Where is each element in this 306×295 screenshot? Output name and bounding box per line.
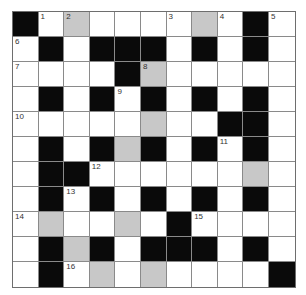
block-cell (243, 137, 269, 162)
shaded-answer-cell[interactable] (64, 237, 90, 262)
answer-cell[interactable] (167, 87, 193, 112)
answer-cell[interactable] (218, 162, 244, 187)
answer-cell[interactable] (269, 37, 295, 62)
answer-cell[interactable]: 4 (218, 12, 244, 37)
answer-cell[interactable]: 3 (167, 12, 193, 37)
answer-cell[interactable] (141, 212, 167, 237)
answer-cell[interactable] (115, 12, 141, 37)
answer-cell[interactable] (13, 262, 39, 287)
answer-cell[interactable] (39, 62, 65, 87)
block-cell (90, 237, 116, 262)
answer-cell[interactable] (90, 212, 116, 237)
answer-cell[interactable] (64, 62, 90, 87)
shaded-answer-cell[interactable] (192, 12, 218, 37)
answer-cell[interactable]: 7 (13, 62, 39, 87)
answer-cell[interactable] (115, 162, 141, 187)
answer-cell[interactable] (269, 212, 295, 237)
answer-cell[interactable] (64, 137, 90, 162)
answer-cell[interactable] (218, 187, 244, 212)
answer-cell[interactable] (218, 262, 244, 287)
answer-cell[interactable]: 16 (64, 262, 90, 287)
answer-cell[interactable] (167, 187, 193, 212)
answer-cell[interactable] (167, 137, 193, 162)
answer-cell[interactable] (269, 162, 295, 187)
answer-cell[interactable] (269, 137, 295, 162)
block-cell (192, 137, 218, 162)
shaded-answer-cell[interactable] (141, 262, 167, 287)
shaded-answer-cell[interactable] (90, 262, 116, 287)
answer-cell[interactable] (192, 262, 218, 287)
answer-cell[interactable] (218, 237, 244, 262)
shaded-answer-cell[interactable] (141, 112, 167, 137)
shaded-answer-cell[interactable] (115, 212, 141, 237)
answer-cell[interactable] (269, 112, 295, 137)
answer-cell[interactable] (13, 237, 39, 262)
answer-cell[interactable] (115, 187, 141, 212)
answer-cell[interactable] (64, 112, 90, 137)
clue-number: 10 (15, 113, 24, 121)
shaded-answer-cell[interactable] (39, 212, 65, 237)
answer-cell[interactable]: 15 (192, 212, 218, 237)
answer-cell[interactable]: 5 (269, 12, 295, 37)
answer-cell[interactable] (192, 62, 218, 87)
answer-cell[interactable]: 6 (13, 37, 39, 62)
shaded-answer-cell[interactable]: 8 (141, 62, 167, 87)
answer-cell[interactable] (167, 37, 193, 62)
answer-cell[interactable] (39, 112, 65, 137)
answer-cell[interactable] (167, 62, 193, 87)
block-cell (243, 187, 269, 212)
answer-cell[interactable] (192, 112, 218, 137)
answer-cell[interactable] (64, 212, 90, 237)
answer-cell[interactable] (167, 112, 193, 137)
answer-cell[interactable] (243, 262, 269, 287)
clue-number: 5 (271, 13, 275, 21)
answer-cell[interactable] (218, 212, 244, 237)
answer-cell[interactable] (13, 162, 39, 187)
answer-cell[interactable] (115, 262, 141, 287)
answer-cell[interactable] (218, 62, 244, 87)
shaded-answer-cell[interactable] (243, 162, 269, 187)
clue-number: 7 (15, 63, 19, 71)
answer-cell[interactable] (90, 112, 116, 137)
answer-cell[interactable]: 10 (13, 112, 39, 137)
clue-number: 1 (41, 13, 45, 21)
answer-cell[interactable] (218, 37, 244, 62)
answer-cell[interactable] (192, 162, 218, 187)
answer-cell[interactable] (13, 137, 39, 162)
answer-cell[interactable]: 12 (90, 162, 116, 187)
answer-cell[interactable] (64, 37, 90, 62)
answer-cell[interactable] (141, 12, 167, 37)
clue-number: 6 (15, 38, 19, 46)
answer-cell[interactable] (167, 262, 193, 287)
answer-cell[interactable] (269, 187, 295, 212)
block-cell (218, 112, 244, 137)
answer-cell[interactable] (90, 12, 116, 37)
shaded-answer-cell[interactable] (115, 137, 141, 162)
answer-cell[interactable] (243, 62, 269, 87)
answer-cell[interactable] (167, 162, 193, 187)
answer-cell[interactable] (64, 87, 90, 112)
answer-cell[interactable]: 13 (64, 187, 90, 212)
answer-cell[interactable] (115, 112, 141, 137)
block-cell (90, 37, 116, 62)
answer-cell[interactable] (243, 212, 269, 237)
answer-cell[interactable] (269, 237, 295, 262)
block-cell (39, 87, 65, 112)
answer-cell[interactable] (90, 62, 116, 87)
answer-cell[interactable] (269, 87, 295, 112)
shaded-answer-cell[interactable]: 2 (64, 12, 90, 37)
block-cell (167, 237, 193, 262)
answer-cell[interactable] (13, 187, 39, 212)
answer-cell[interactable]: 1 (39, 12, 65, 37)
answer-cell[interactable]: 11 (218, 137, 244, 162)
block-cell (115, 37, 141, 62)
clue-number: 14 (15, 213, 24, 221)
answer-cell[interactable] (218, 87, 244, 112)
answer-cell[interactable] (115, 237, 141, 262)
answer-cell[interactable]: 9 (115, 87, 141, 112)
answer-cell[interactable]: 14 (13, 212, 39, 237)
block-cell (13, 12, 39, 37)
answer-cell[interactable] (13, 87, 39, 112)
answer-cell[interactable] (141, 162, 167, 187)
answer-cell[interactable] (269, 62, 295, 87)
